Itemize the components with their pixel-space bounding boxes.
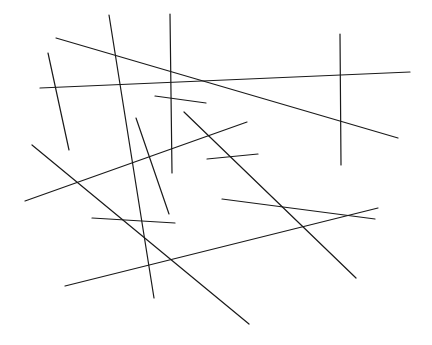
line-segment: [340, 34, 341, 165]
line-segments-drawing: [0, 0, 432, 345]
segment-group: [25, 14, 410, 324]
line-segment: [184, 112, 356, 278]
line-segment: [155, 96, 206, 103]
line-segment: [136, 118, 169, 214]
line-segment: [222, 199, 375, 219]
line-segment: [32, 145, 249, 324]
line-segment: [48, 53, 69, 150]
line-segment: [25, 122, 247, 201]
line-segments-canvas: [0, 0, 432, 345]
line-segment: [40, 72, 410, 88]
line-segment: [92, 218, 175, 223]
line-segment: [56, 38, 398, 138]
line-segment: [109, 15, 154, 298]
